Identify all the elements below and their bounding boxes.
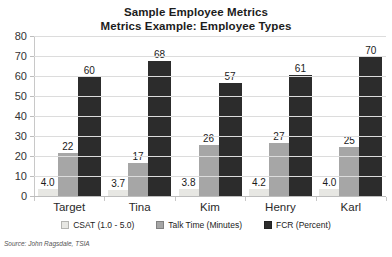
- bar: 22: [58, 153, 78, 197]
- x-axis-labels: TargetTinaKimHenryKarl: [34, 201, 386, 213]
- bar: 25: [339, 147, 359, 197]
- y-tick-label: 60: [15, 71, 27, 81]
- bar: 60: [78, 77, 101, 197]
- legend-swatch: [61, 221, 69, 229]
- y-tick-label: 20: [15, 151, 27, 161]
- legend-label: Talk Time (Minutes): [168, 220, 242, 230]
- x-tick-mark: [386, 197, 387, 201]
- gridline: [34, 176, 386, 177]
- y-tick-label: 70: [15, 51, 27, 61]
- bar-value-label: 68: [154, 49, 165, 60]
- legend-label: FCR (Percent): [276, 220, 331, 230]
- category-label: Target: [34, 201, 104, 213]
- bar-value-label: 61: [295, 63, 306, 74]
- bar-group: 4.22761: [245, 37, 315, 197]
- bar-value-label: 3.7: [111, 178, 125, 189]
- gridline: [34, 36, 386, 37]
- source-note: Source: John Ragsdale, TSIA: [4, 240, 90, 247]
- legend-item: FCR (Percent): [264, 220, 331, 230]
- y-tick-mark: [30, 156, 34, 157]
- plot-area: 4.022603.717683.826574.227614.02570 0102…: [34, 37, 386, 197]
- bar-value-label: 4.0: [322, 177, 336, 188]
- bar-value-label: 26: [203, 133, 214, 144]
- y-tick-label: 40: [15, 111, 27, 121]
- gridline: [34, 156, 386, 157]
- bar-group: 3.71768: [104, 37, 174, 197]
- y-tick-mark: [30, 176, 34, 177]
- category-label: Karl: [316, 201, 386, 213]
- bar-value-label: 22: [62, 141, 73, 152]
- bar-value-label: 4.2: [252, 177, 266, 188]
- y-tick-label: 30: [15, 131, 27, 141]
- gridline: [34, 116, 386, 117]
- legend-label: CSAT (1.0 - 5.0): [73, 220, 134, 230]
- y-tick-label: 80: [15, 31, 27, 41]
- bar-value-label: 60: [84, 65, 95, 76]
- bar-group: 4.02260: [34, 37, 104, 197]
- y-tick-label: 10: [15, 171, 27, 181]
- bar: 17: [128, 163, 148, 197]
- x-tick-mark: [316, 197, 317, 201]
- y-tick-mark: [30, 36, 34, 37]
- bar-value-label: 4.0: [41, 177, 55, 188]
- chart-title: Sample Employee Metrics: [0, 5, 392, 19]
- gridline: [34, 76, 386, 77]
- x-tick-mark: [34, 197, 35, 201]
- y-tick-label: 50: [15, 91, 27, 101]
- y-tick-mark: [30, 116, 34, 117]
- chart-header: Sample Employee Metrics Metrics Example:…: [0, 5, 392, 33]
- y-tick-mark: [30, 136, 34, 137]
- bar: 57: [219, 83, 242, 197]
- category-label: Tina: [104, 201, 174, 213]
- y-tick-label: 0: [21, 191, 27, 201]
- y-tick-mark: [30, 96, 34, 97]
- chart-subtitle: Metrics Example: Employee Types: [0, 19, 392, 33]
- legend-item: CSAT (1.0 - 5.0): [61, 220, 134, 230]
- bar-group: 3.82657: [175, 37, 245, 197]
- y-tick-mark: [30, 76, 34, 77]
- bar-value-label: 70: [365, 45, 376, 56]
- gridline: [34, 96, 386, 97]
- gridline: [34, 136, 386, 137]
- legend-item: Talk Time (Minutes): [156, 220, 242, 230]
- bar-value-label: 3.8: [182, 177, 196, 188]
- bar-groups: 4.022603.717683.826574.227614.02570: [34, 37, 386, 197]
- legend-swatch: [156, 221, 164, 229]
- bar: 26: [199, 145, 219, 197]
- legend: CSAT (1.0 - 5.0)Talk Time (Minutes)FCR (…: [0, 220, 392, 230]
- x-tick-mark: [175, 197, 176, 201]
- bar-group: 4.02570: [316, 37, 386, 197]
- category-label: Kim: [175, 201, 245, 213]
- bar: 27: [269, 143, 289, 197]
- legend-swatch: [264, 221, 272, 229]
- gridline: [34, 56, 386, 57]
- category-label: Henry: [245, 201, 315, 213]
- y-tick-mark: [30, 56, 34, 57]
- x-tick-mark: [245, 197, 246, 201]
- x-axis-baseline: [34, 196, 386, 197]
- x-tick-mark: [104, 197, 105, 201]
